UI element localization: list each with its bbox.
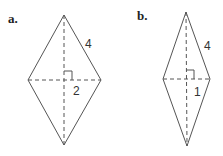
rhombus-a [28, 15, 101, 145]
side-length-b: 4 [204, 39, 211, 53]
figure-b-label: b. [137, 8, 147, 24]
half-diagonal-b: 1 [194, 85, 201, 99]
rhombus-diagrams [0, 0, 223, 156]
half-diagonal-a: 2 [73, 84, 80, 98]
right-angle-marker-b [186, 70, 194, 79]
figure-a-label: a. [8, 11, 18, 27]
rhombus-b [163, 12, 210, 146]
right-angle-marker-a [64, 71, 72, 80]
side-length-a: 4 [85, 37, 92, 51]
